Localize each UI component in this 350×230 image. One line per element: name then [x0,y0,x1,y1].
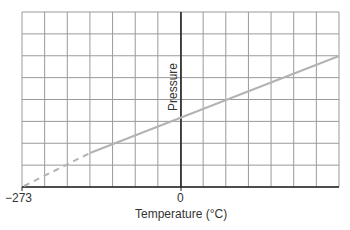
x-tick-label-zero: 0 [177,191,184,205]
y-axis-title: Pressure [166,63,180,111]
extrapolation-line-dashed [24,153,90,186]
data-line-solid [90,56,339,153]
x-tick-label-min: −273 [5,191,32,205]
x-axis-title: Temperature (°C) [135,207,227,221]
chart-canvas [0,0,350,230]
